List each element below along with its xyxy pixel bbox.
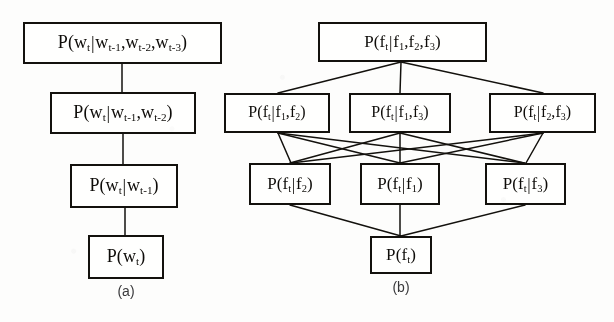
edge-b3-bt xyxy=(401,205,525,236)
node-label: P(ft|f3) xyxy=(503,175,549,192)
node-label: P(wt|wt-1,wt-2) xyxy=(73,103,172,121)
edge-b0-b12 xyxy=(278,62,401,93)
caption-panel-b: (b) xyxy=(371,279,431,295)
node-label: P(ft|f1,f2) xyxy=(248,104,306,120)
caption-panel-a: (a) xyxy=(96,283,156,299)
node-p-ft-given-f2: P(ft|f2) xyxy=(249,163,331,205)
node-p-ft-given-f2-f3: P(ft|f2,f3) xyxy=(489,93,596,133)
edge-b23-b1 xyxy=(400,133,543,163)
edge-b13-b3 xyxy=(290,133,400,163)
edge-b13-b3b xyxy=(400,133,524,163)
node-label: P(wt) xyxy=(107,247,146,265)
node-label: P(ft|f1) xyxy=(377,175,423,192)
edge-b12-b1 xyxy=(278,133,525,163)
node-p-wt-given-wt1: P(wt|wt-1) xyxy=(70,164,178,208)
node-label: P(ft|f1,f2,f3) xyxy=(364,33,440,50)
node-label: P(ft) xyxy=(386,246,416,263)
node-label: P(ft|f2,f3) xyxy=(514,104,572,120)
node-p-wt: P(wt) xyxy=(88,235,164,279)
node-p-wt-given-wt1-wt2: P(wt|wt-1,wt-2) xyxy=(50,92,196,134)
edge-b23-b2 xyxy=(291,133,543,163)
edge-b0-b13 xyxy=(400,62,401,93)
node-p-ft-given-f1: P(ft|f1) xyxy=(360,163,440,205)
edge-b2-bt xyxy=(290,205,401,236)
edge-b0-b23 xyxy=(401,62,543,93)
node-label: P(wt|wt-1) xyxy=(89,176,158,194)
node-p-ft-given-f1-f2: P(ft|f1,f2) xyxy=(224,93,330,133)
node-p-ft-given-f1-f2-f3: P(ft|f1,f2,f3) xyxy=(318,22,487,62)
node-label: P(ft|f1,f3) xyxy=(371,104,429,120)
node-p-ft-given-f3: P(ft|f3) xyxy=(485,163,566,205)
node-p-wt-given-wt1-wt2-wt3: P(wt|wt-1,wt-2,wt-3) xyxy=(23,22,222,64)
node-label: P(ft|f2) xyxy=(267,175,313,192)
edge-b23-b3 xyxy=(526,133,543,163)
node-p-ft: P(ft) xyxy=(370,236,432,274)
node-label: P(wt|wt-1,wt-2,wt-3) xyxy=(58,33,187,51)
edge-b12-b1b xyxy=(278,133,400,163)
backoff-lattice-figure: P(wt|wt-1,wt-2,wt-3) P(wt|wt-1,wt-2) P(w… xyxy=(0,0,614,322)
edge-b12-b2 xyxy=(278,133,291,163)
node-p-ft-given-f1-f3: P(ft|f1,f3) xyxy=(349,93,451,133)
